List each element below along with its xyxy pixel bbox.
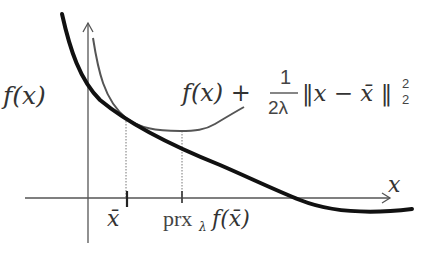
moreau-sup: 2 [402, 76, 409, 91]
xbar-label: x̄ [107, 206, 120, 231]
fx-label: f(x) [1, 81, 46, 110]
prox-name: prx [163, 206, 192, 231]
prox-label: prx λ f(x̄) [163, 206, 250, 234]
moreau-f-label: f(x) + [180, 79, 251, 107]
moreau-denominator: 2λ [268, 97, 289, 118]
moreau-sub: 2 [402, 92, 409, 107]
x-axis-label: x [388, 172, 401, 197]
diagram-svg: f(x) f(x) + 1 2λ ‖x − x̄ ‖ 2 2 x x̄ prx … [0, 0, 435, 259]
prox-diagram: f(x) f(x) + 1 2λ ‖x − x̄ ‖ 2 2 x x̄ prx … [0, 0, 435, 259]
moreau-norm: ‖x − x̄ ‖ [302, 80, 392, 107]
f-curve [62, 14, 412, 212]
prox-arg: f(x̄) [210, 206, 250, 231]
moreau-formula: f(x) + 1 2λ ‖x − x̄ ‖ 2 2 [180, 66, 409, 118]
prox-sub: λ [198, 220, 207, 234]
moreau-numerator: 1 [280, 66, 291, 88]
